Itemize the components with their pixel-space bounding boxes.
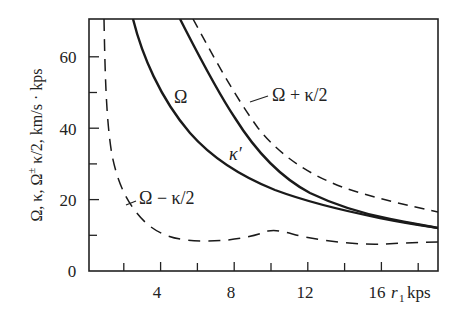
plot-frame xyxy=(89,19,438,271)
x-tick-label-4: 4 xyxy=(153,283,162,302)
leader-omega-plus xyxy=(250,96,268,102)
y-tick-label-0: 0 xyxy=(68,262,77,281)
y-tick-label-20: 20 xyxy=(60,191,77,210)
y-axis-label: Ω, κ, Ω± κ/2, km/s · kps xyxy=(25,68,46,221)
y-tick-label-40: 40 xyxy=(60,120,77,139)
curve-kappa xyxy=(180,19,438,228)
x-axis-sub: 1 xyxy=(399,292,405,304)
curve-omega-plus-half-kappa xyxy=(193,19,438,212)
chart: 0 20 40 60 4 8 12 16 r 1 kps Ω, κ, Ω± κ/… xyxy=(0,0,463,313)
annotation-omega: Ω xyxy=(174,87,187,107)
y-axis-label-rest: κ/2, km/s · kps xyxy=(28,68,46,167)
annotation-omega-minus-half-kappa: Ω − κ/2 xyxy=(139,188,195,208)
x-axis-label: 16 r 1 kps xyxy=(369,283,431,304)
y-axis-label-main: Ω, κ, Ω xyxy=(28,174,45,222)
annotation-kappa: κ′ xyxy=(229,144,243,164)
y-tick-label-60: 60 xyxy=(60,48,77,67)
x-axis-unit: kps xyxy=(407,283,431,302)
annotation-omega-plus-half-kappa: Ω + κ/2 xyxy=(272,85,328,105)
x-tick-label-8: 8 xyxy=(227,283,236,302)
x-tick-label-16: 16 xyxy=(369,283,386,302)
x-axis-var: r xyxy=(391,283,398,302)
y-ticks xyxy=(89,57,99,236)
curve-omega-minus-half-kappa xyxy=(104,19,438,244)
x-ticks xyxy=(124,262,418,271)
curves xyxy=(104,19,438,244)
x-tick-label-12: 12 xyxy=(297,283,314,302)
